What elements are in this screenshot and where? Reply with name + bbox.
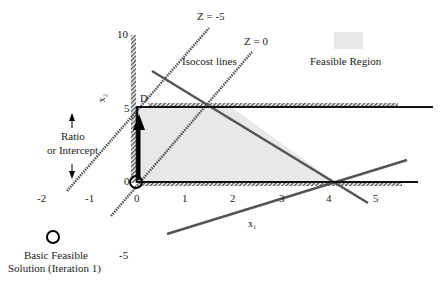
x-axis-hatch — [142, 183, 402, 186]
x-tick-minus-2: -2 — [37, 193, 46, 204]
bfs-legend-line1: Basic Feasible — [24, 250, 88, 261]
y-tick-5: 5 — [124, 103, 130, 114]
x-tick-5: 5 — [373, 193, 379, 204]
legend-feasible-label: Feasible Region — [310, 56, 381, 67]
isocost-lines-label: Isocost lines — [182, 56, 237, 67]
y-axis-label: x₂ — [97, 94, 107, 103]
y-tick-minus-5: -5 — [119, 250, 128, 261]
x-tick-minus-1: -1 — [85, 193, 94, 204]
x-tick-0: 0 — [134, 193, 140, 204]
legend-bfs-circle-icon — [47, 231, 59, 243]
ratio-up-arrow-icon — [69, 113, 75, 121]
feasible-region — [136, 107, 335, 182]
ratio-label: Ratio — [61, 131, 85, 142]
y-tick-10: 10 — [117, 29, 128, 40]
y-tick-0: 0 — [124, 176, 130, 187]
x-tick-4: 4 — [326, 193, 332, 204]
lp-graph — [0, 0, 444, 284]
intercept-label: or Intercept — [47, 145, 98, 156]
y-axis-hatch — [131, 35, 136, 183]
isocost-z-minus-5-label: Z = -5 — [197, 11, 225, 22]
x-axis-label: x₁ — [248, 219, 257, 229]
point-d-label: D — [140, 93, 148, 104]
top-constraint-hatch — [148, 103, 398, 106]
x-tick-1: 1 — [182, 193, 188, 204]
x-tick-3: 3 — [279, 193, 285, 204]
legend-feasible-swatch — [334, 32, 363, 49]
x-tick-2: 2 — [230, 193, 236, 204]
ratio-down-arrow-icon — [69, 171, 75, 179]
bfs-legend-line2: Solution (Iteration 1) — [8, 263, 101, 274]
isocost-z-0-label: Z = 0 — [244, 36, 268, 47]
